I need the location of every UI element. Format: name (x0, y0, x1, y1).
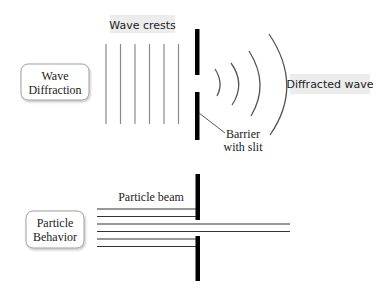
wave-crest-lines (106, 44, 179, 124)
particle-beam-label: Particle beam (118, 190, 184, 204)
barrier-bottom (196, 236, 201, 281)
wave-box-line1: Wave (41, 69, 68, 83)
barrier-label-line2: with slit (223, 140, 263, 154)
particle-barrier (196, 174, 201, 281)
arc-2 (231, 63, 239, 105)
diffraction-diagram: Wave Diffraction Wave crests Diffracted … (0, 0, 387, 301)
arc-1 (215, 69, 220, 96)
particle-beam-lines (97, 209, 290, 247)
arc-3 (249, 51, 260, 116)
particle-box-line2: Behavior (33, 230, 77, 244)
diffracted-arcs (215, 34, 287, 135)
wave-crests-label: Wave crests (109, 15, 176, 33)
diffracted-wave-text: Diffracted wave (287, 78, 374, 91)
barrier-label-line1: Barrier (226, 127, 260, 141)
diffracted-wave-label: Diffracted wave (287, 74, 374, 94)
arc-4 (269, 34, 287, 135)
wave-box-line2: Diffraction (28, 83, 81, 97)
wave-diffraction-box: Wave Diffraction (21, 64, 89, 100)
wave-crests-text: Wave crests (109, 19, 176, 32)
barrier-with-slit-label: Barrier with slit (199, 113, 263, 154)
barrier-pointer-line (199, 113, 225, 133)
wave-barrier (195, 29, 200, 140)
particle-behavior-box: Particle Behavior (26, 211, 84, 248)
particle-box-line1: Particle (37, 216, 74, 230)
barrier-top (196, 174, 201, 220)
barrier-top (195, 29, 200, 75)
barrier-bottom (195, 92, 200, 140)
